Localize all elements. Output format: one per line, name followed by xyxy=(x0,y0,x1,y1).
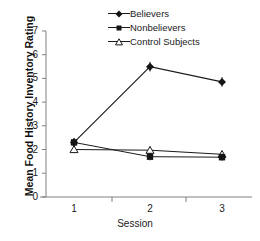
data-point-marker xyxy=(219,154,225,160)
x-axis-title: Session xyxy=(80,218,190,229)
series-believers xyxy=(70,62,226,147)
chart-figure: Believers Nonbelievers Control Subjects xyxy=(0,0,260,241)
x-axis-ticks xyxy=(112,197,186,202)
x-tick-label: 1 xyxy=(66,203,82,214)
y-axis-ticks xyxy=(42,31,46,197)
axis-lines xyxy=(40,31,252,197)
data-point-marker xyxy=(218,78,226,86)
data-point-marker xyxy=(147,154,153,160)
x-tick-label: 3 xyxy=(214,203,230,214)
x-tick-label: 2 xyxy=(142,203,158,214)
y-axis-title: Mean Food History Inventory Rating xyxy=(23,11,35,201)
